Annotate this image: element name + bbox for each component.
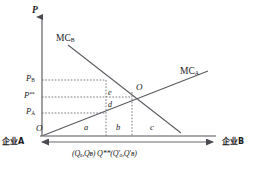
mc-b-label-base: MC (56, 33, 71, 43)
price-tick-pstarstar: P** (24, 91, 34, 100)
point-label-d: d (108, 101, 112, 109)
point-label-o: O (136, 83, 143, 92)
price-tick-pa-sub: A (31, 110, 35, 116)
bottom-left-quantity: (Qₐ,Qʙ) (72, 149, 95, 158)
bottom-right-quantity: (Q′ₐ,Q′ʙ) (110, 149, 136, 158)
firm-a-label: 企业A (2, 138, 24, 146)
price-tick-pstarstar-sup: ** (29, 91, 34, 97)
mc-b-label-sub: B (71, 37, 75, 43)
firm-b-label: 企业B (222, 138, 244, 146)
price-tick-pb-sub: B (31, 77, 35, 83)
bottom-equilibrium: Q** (97, 149, 110, 158)
origin-label: O (36, 124, 43, 133)
region-label-c: c (150, 123, 154, 132)
vertical-axis-label: P (32, 6, 38, 16)
mc-b-label: MCB (56, 34, 75, 44)
region-label-a: a (84, 123, 88, 132)
mc-a-label-sub: A (195, 70, 199, 76)
bottom-axis-annotation: (Qₐ,Qʙ) Q**(Q′ₐ,Q′ʙ) (72, 150, 137, 158)
point-label-e: e (108, 89, 112, 97)
mc-a-curve (43, 71, 208, 136)
price-tick-pb: PB (26, 74, 35, 83)
mc-a-label: MCA (180, 67, 199, 77)
diagram-canvas: P O MCB MCA PB P** PA O e d a b c 企业A 企业… (0, 0, 266, 171)
mc-b-curve (68, 45, 181, 133)
price-tick-pa: PA (26, 107, 35, 116)
region-label-b: b (116, 123, 120, 132)
mc-a-label-base: MC (180, 66, 195, 76)
